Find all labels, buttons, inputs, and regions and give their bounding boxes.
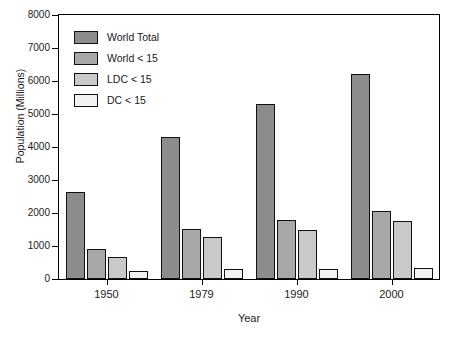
bar bbox=[414, 268, 433, 279]
y-tick-mark bbox=[52, 246, 58, 247]
y-tick-mark bbox=[52, 180, 58, 181]
legend-label: World Total bbox=[107, 31, 159, 43]
bar bbox=[372, 211, 391, 279]
legend-item: World < 15 bbox=[74, 49, 204, 67]
x-tick-label: 1990 bbox=[257, 288, 337, 300]
y-tick-label: 0 bbox=[44, 274, 50, 284]
legend-swatch bbox=[74, 94, 98, 107]
bar bbox=[129, 271, 148, 279]
y-tick-mark bbox=[52, 213, 58, 214]
x-tick-mark bbox=[392, 280, 393, 285]
bar bbox=[319, 269, 338, 279]
bar bbox=[256, 104, 275, 279]
x-tick-label: 1950 bbox=[67, 288, 147, 300]
x-tick-label: 2000 bbox=[352, 288, 432, 300]
y-tick-label: 1000 bbox=[28, 241, 50, 251]
y-tick-label: 4000 bbox=[28, 142, 50, 152]
y-axis-title: Population (Millions) bbox=[14, 21, 26, 211]
bar bbox=[203, 237, 222, 279]
legend-item: LDC < 15 bbox=[74, 70, 204, 88]
legend-label: DC < 15 bbox=[107, 94, 146, 106]
legend-swatch bbox=[74, 73, 98, 86]
y-tick-label: 5000 bbox=[28, 109, 50, 119]
x-tick-mark bbox=[297, 280, 298, 285]
y-tick-mark bbox=[52, 147, 58, 148]
y-tick-label: 8000 bbox=[28, 10, 50, 20]
x-tick-mark bbox=[107, 280, 108, 285]
y-tick-mark bbox=[52, 15, 58, 16]
y-tick-label: 3000 bbox=[28, 175, 50, 185]
legend-label: LDC < 15 bbox=[107, 73, 152, 85]
y-tick-mark bbox=[52, 48, 58, 49]
y-tick-label: 2000 bbox=[28, 208, 50, 218]
legend-item: World Total bbox=[74, 28, 204, 46]
bar bbox=[87, 249, 106, 279]
bar bbox=[351, 74, 370, 279]
y-tick-mark bbox=[52, 114, 58, 115]
x-axis-title: Year bbox=[58, 312, 440, 324]
legend-label: World < 15 bbox=[107, 52, 158, 64]
bar bbox=[298, 230, 317, 280]
bar bbox=[224, 269, 243, 279]
legend-swatch bbox=[74, 52, 98, 65]
y-tick-mark bbox=[52, 81, 58, 82]
bar bbox=[182, 229, 201, 279]
legend: World TotalWorld < 15LDC < 15DC < 15 bbox=[74, 28, 204, 112]
bar bbox=[66, 192, 85, 279]
y-tick-mark bbox=[52, 279, 58, 280]
legend-item: DC < 15 bbox=[74, 91, 204, 109]
bar bbox=[108, 257, 127, 279]
legend-swatch bbox=[74, 31, 98, 44]
y-tick-label: 6000 bbox=[28, 76, 50, 86]
y-axis: 010002000300040005000600070008000 bbox=[0, 0, 58, 294]
x-tick-mark bbox=[202, 280, 203, 285]
bar bbox=[277, 220, 296, 279]
bar bbox=[161, 137, 180, 279]
y-tick-label: 7000 bbox=[28, 43, 50, 53]
bar-chart: 010002000300040005000600070008000 Popula… bbox=[0, 0, 462, 340]
x-tick-label: 1979 bbox=[162, 288, 242, 300]
bar bbox=[393, 221, 412, 279]
